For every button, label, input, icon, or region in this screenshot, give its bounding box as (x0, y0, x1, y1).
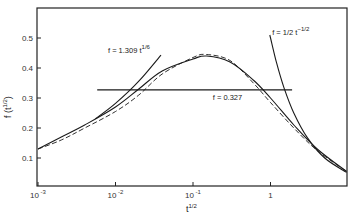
annotation-label: f = 1/2 t−1/2 (272, 26, 310, 37)
series-line (38, 54, 347, 171)
y-axis-ticks: 0.10.20.30.40.5 (22, 34, 41, 163)
x-tick-label: 1 (268, 191, 273, 200)
series-line (38, 56, 347, 172)
y-tick-label: 0.2 (22, 124, 34, 133)
y-axis-label: f (t1/2) (2, 96, 13, 118)
y-tick-label: 0.1 (22, 154, 34, 163)
plot-frame (37, 8, 347, 186)
x-tick-label: 10 -1 (185, 189, 202, 200)
y-tick-label: 0.5 (22, 34, 34, 43)
x-tick-label: 10 -2 (108, 189, 125, 200)
annotation-label: f = 0.327 (213, 93, 242, 102)
chart: 0.10.20.30.40.5 10 -310 -210 -11 f = 1.3… (0, 0, 355, 220)
series-line (270, 35, 347, 172)
x-tick-label: 10 -3 (30, 189, 47, 200)
annotation-label: f = 1.309 t1/6 (108, 44, 151, 55)
x-axis-label: t1/2 (186, 203, 198, 214)
y-tick-label: 0.3 (22, 94, 34, 103)
x-axis-ticks: 10 -310 -210 -11 (30, 182, 273, 200)
line-chart-svg: 0.10.20.30.40.5 10 -310 -210 -11 f = 1.3… (0, 0, 355, 220)
series-line (95, 55, 161, 119)
series-group (38, 35, 347, 172)
y-tick-label: 0.4 (22, 64, 34, 73)
